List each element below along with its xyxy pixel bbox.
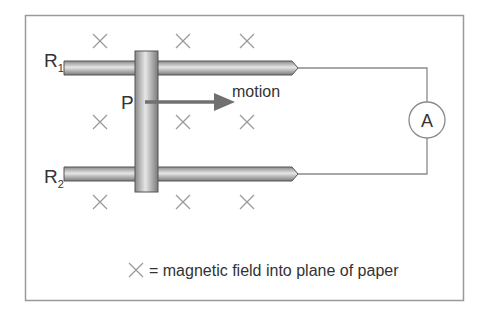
rail-r1	[64, 61, 298, 75]
rail-r2	[64, 167, 298, 181]
rail-label-r1: R1	[44, 50, 64, 74]
cross-icon	[240, 115, 254, 129]
cross-icon	[93, 115, 107, 129]
legend-text: = magnetic field into plane of paper	[149, 262, 399, 279]
bar-label-p: P	[121, 92, 134, 113]
cross-icon	[93, 34, 107, 48]
rail-label-r2: R2	[44, 166, 64, 190]
cross-icon	[240, 34, 254, 48]
cross-icon	[176, 115, 190, 129]
cross-icon	[93, 195, 107, 209]
cross-icon	[240, 195, 254, 209]
frame	[26, 16, 464, 301]
cross-icon	[176, 34, 190, 48]
ammeter: A	[409, 102, 445, 138]
ammeter-label: A	[421, 111, 433, 131]
sliding-bar-p	[135, 51, 158, 192]
circuit-wire	[296, 68, 427, 174]
legend: = magnetic field into plane of paper	[129, 262, 399, 279]
cross-icon	[176, 195, 190, 209]
motion-label: motion	[232, 83, 280, 100]
diagram: A R1 R2 P motion = magnetic field into p…	[0, 0, 483, 313]
field-crosses	[93, 34, 254, 209]
cross-icon	[129, 263, 143, 277]
